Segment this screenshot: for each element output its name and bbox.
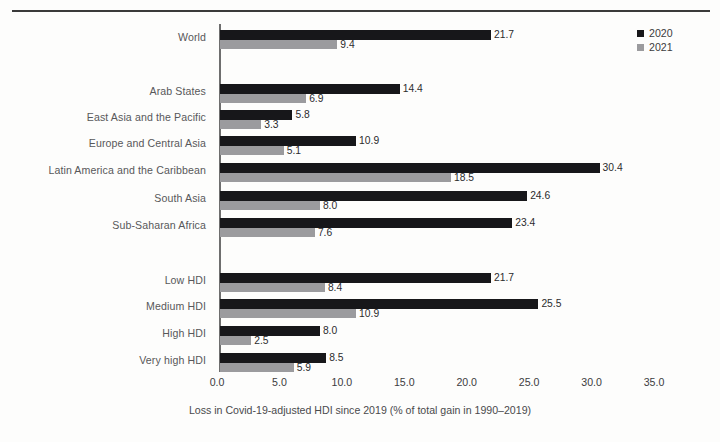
x-tick-label: 25.0	[519, 376, 540, 388]
bar-value-2021: 18.5	[451, 173, 474, 183]
bar-2021[interactable]	[220, 283, 325, 293]
legend-item-2020[interactable]: 2020	[637, 26, 673, 40]
bar-2020[interactable]	[220, 30, 491, 40]
bar-row: 25.510.9	[220, 299, 700, 318]
bar-value-2021: 3.3	[261, 120, 278, 130]
x-tick-label: 5.0	[272, 376, 287, 388]
bar-value-2020: 10.9	[356, 136, 379, 146]
bar-row: 8.02.5	[220, 326, 700, 345]
bar-2020[interactable]	[220, 218, 512, 228]
bar-row: 14.46.9	[220, 84, 700, 103]
x-tick-label: 0.0	[210, 376, 225, 388]
category-label: High HDI	[0, 327, 206, 339]
bar-value-2021: 2.5	[251, 336, 268, 346]
bar-row: 30.418.5	[220, 163, 700, 182]
category-label: Arab States	[0, 85, 206, 97]
bar-2020[interactable]	[220, 163, 600, 173]
bar-row: 21.79.4	[220, 30, 700, 49]
legend-swatch-2020-icon	[637, 30, 644, 37]
bar-value-2020: 21.7	[491, 30, 514, 40]
bar-value-2021: 5.9	[294, 363, 311, 373]
bar-2021[interactable]	[220, 201, 320, 211]
bar-row: 21.78.4	[220, 273, 700, 292]
bar-value-2020: 30.4	[600, 163, 623, 173]
bar-row: 8.55.9	[220, 353, 700, 372]
bar-value-2021: 8.0	[320, 201, 337, 211]
bar-2020[interactable]	[220, 191, 527, 201]
bar-2020[interactable]	[220, 110, 292, 120]
bar-2021[interactable]	[220, 40, 337, 50]
bar-value-2020: 21.7	[491, 273, 514, 283]
legend-label-2020: 2020	[649, 27, 673, 39]
chart-legend: 2020 2021	[637, 26, 673, 54]
category-label: World	[0, 31, 206, 43]
figure-root: World21.79.4Arab States14.46.9East Asia …	[0, 0, 720, 442]
bar-value-2021: 8.4	[325, 283, 342, 293]
bar-value-2021: 7.6	[315, 228, 332, 238]
bar-2020[interactable]	[220, 326, 320, 336]
x-tick-label: 35.0	[644, 376, 665, 388]
bar-value-2020: 5.8	[292, 110, 309, 120]
bar-row: 5.83.3	[220, 110, 700, 129]
plot-area: World21.79.4Arab States14.46.9East Asia …	[0, 0, 720, 442]
bar-value-2020: 14.4	[400, 84, 423, 94]
x-tick-label: 15.0	[394, 376, 415, 388]
category-label: Latin America and the Caribbean	[0, 164, 206, 176]
category-label: Medium HDI	[0, 300, 206, 312]
bar-value-2021: 6.9	[306, 94, 323, 104]
legend-label-2021: 2021	[649, 41, 673, 53]
bar-2021[interactable]	[220, 173, 451, 183]
legend-swatch-2021-icon	[637, 44, 644, 51]
bar-2021[interactable]	[220, 146, 284, 156]
x-axis-title: Loss in Covid-19-adjusted HDI since 2019…	[0, 404, 720, 416]
x-tick-label: 30.0	[581, 376, 602, 388]
bar-value-2020: 24.6	[527, 191, 550, 201]
bar-2020[interactable]	[220, 273, 491, 283]
category-label: Sub-Saharan Africa	[0, 219, 206, 231]
bar-2021[interactable]	[220, 363, 294, 373]
category-label: South Asia	[0, 192, 206, 204]
category-label: Low HDI	[0, 274, 206, 286]
bar-value-2020: 8.5	[326, 353, 343, 363]
category-label: Very high HDI	[0, 354, 206, 366]
bar-2020[interactable]	[220, 299, 538, 309]
bar-row: 10.95.1	[220, 136, 700, 155]
category-label: Europe and Central Asia	[0, 137, 206, 149]
bar-value-2021: 9.4	[337, 40, 354, 50]
legend-item-2021[interactable]: 2021	[637, 40, 673, 54]
category-label: East Asia and the Pacific	[0, 111, 206, 123]
bar-row: 24.68.0	[220, 191, 700, 210]
bar-value-2021: 10.9	[356, 309, 379, 319]
bar-2021[interactable]	[220, 336, 251, 346]
bar-2021[interactable]	[220, 120, 261, 130]
bar-value-2021: 5.1	[284, 146, 301, 156]
bar-value-2020: 23.4	[512, 218, 535, 228]
bar-row: 23.47.6	[220, 218, 700, 237]
bar-value-2020: 8.0	[320, 326, 337, 336]
x-tick-label: 20.0	[456, 376, 477, 388]
x-tick-label: 10.0	[332, 376, 353, 388]
bar-value-2020: 25.5	[538, 299, 561, 309]
bar-2021[interactable]	[220, 309, 356, 319]
bar-2021[interactable]	[220, 94, 306, 104]
bar-2021[interactable]	[220, 228, 315, 238]
